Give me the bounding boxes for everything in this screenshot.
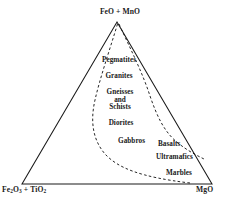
apex-vertex-label: FeO + MnO bbox=[95, 8, 145, 16]
left-vertex-sub-3: 2 bbox=[43, 188, 46, 194]
field-label-gabbros: Gabbros bbox=[118, 138, 162, 146]
left-vertex-plus: + bbox=[22, 185, 30, 194]
field-label-basalts: Basalts bbox=[158, 141, 196, 149]
left-vertex-sub-1: 2 bbox=[10, 188, 13, 194]
left-vertex-sub-2: 3 bbox=[19, 188, 22, 194]
field-label-marbles: Marbles bbox=[166, 170, 206, 178]
field-label-gneisses-and-schists: Gneisses and Schists bbox=[93, 89, 147, 112]
left-vertex-species-1: Fe bbox=[2, 185, 10, 194]
field-label-granites: Granites bbox=[88, 73, 150, 81]
field-label-diorites: Diorites bbox=[93, 120, 149, 128]
field-label-gneisses-line3: Schists bbox=[93, 104, 147, 112]
field-label-ultramafics: Ultramafics bbox=[156, 154, 204, 162]
left-vertex-label: Fe2O3 + TiO2 bbox=[2, 186, 46, 194]
ternary-diagram: FeO + MnO Fe2O3 + TiO2 MgO Pegmatites Gr… bbox=[0, 0, 230, 206]
field-label-pegmatites: Pegmatites bbox=[88, 57, 150, 65]
right-vertex-label: MgO bbox=[196, 186, 213, 194]
